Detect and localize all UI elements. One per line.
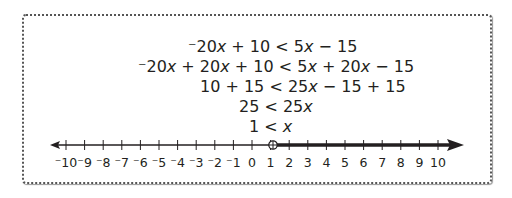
tick-label: ⁻9	[77, 155, 92, 170]
tick-label: 0	[248, 155, 256, 170]
tick-label: ⁻3	[189, 155, 204, 170]
tick-label: 1	[267, 155, 275, 170]
tick-label: ⁻8	[96, 155, 111, 170]
tick-label: 3	[304, 155, 312, 170]
tick-label: ⁻7	[115, 155, 130, 170]
tick-label: 7	[378, 155, 386, 170]
tick-label: 5	[341, 155, 349, 170]
tick-label: ⁻4	[170, 155, 185, 170]
tick-label: 2	[285, 155, 293, 170]
tick-label: 9	[415, 155, 423, 170]
tick-label: ⁻5	[152, 155, 167, 170]
number-line: ⁻10⁻9⁻8⁻7⁻6⁻5⁻4⁻3⁻2⁻1012345678910	[0, 0, 512, 198]
tick-label: 6	[360, 155, 368, 170]
tick-label: 10	[430, 155, 446, 170]
tick-label: ⁻10	[55, 155, 78, 170]
tick-label: 8	[397, 155, 405, 170]
tick-label: ⁻2	[208, 155, 223, 170]
tick-label: ⁻6	[133, 155, 148, 170]
tick-label: ⁻1	[226, 155, 241, 170]
tick-label: 4	[322, 155, 330, 170]
